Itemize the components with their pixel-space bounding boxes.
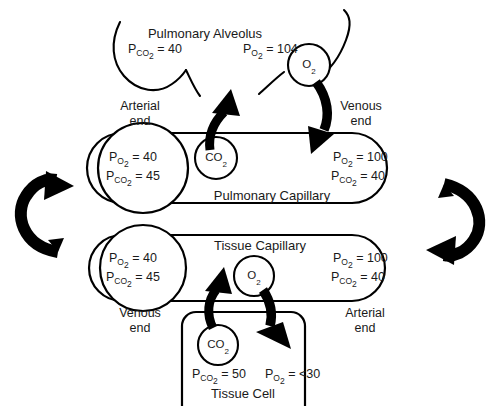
gas-exchange-diagram: Pulmonary Alveolus PCO2 = 40 PO2 = 104 A… <box>0 0 502 408</box>
pulmonary-capillary-title: Pulmonary Capillary <box>214 188 330 203</box>
right-circulation-arrow <box>426 184 479 265</box>
pulmonary-arterial-end-label: Arterial end <box>120 99 160 129</box>
tissue-venous-rbc <box>100 225 186 311</box>
pulmonary-left-po2: PO2 = 40 <box>109 150 157 166</box>
pulmonary-left-pco2: PCO2 = 45 <box>106 169 160 185</box>
tissue-cell-co2-bubble-label: CO2 <box>207 338 229 353</box>
tissue-cell-title: Tissue Cell <box>211 386 275 401</box>
pulmonary-right-pco2: PCO2 = 40 <box>331 169 385 185</box>
tissue-right-pco2: PCO2 = 40 <box>331 270 385 286</box>
pulmonary-right-po2: PO2 = 100 <box>333 150 388 166</box>
diagram-canvas <box>0 0 502 408</box>
alveolus-po2: PO2 = 104 <box>243 42 298 58</box>
tissue-cell-po2: PO2 = <30 <box>265 367 320 383</box>
pulmonary-co2-bubble-label: CO2 <box>205 151 227 166</box>
tissue-cell-pco2: PCO2 = 50 <box>192 367 246 383</box>
left-circulation-arrow <box>21 171 74 252</box>
pulmonary-o2-bubble-label: O2 <box>302 58 315 73</box>
pulmonary-arterial-rbc <box>98 123 188 213</box>
tissue-capillary-title: Tissue Capillary <box>214 238 306 253</box>
tissue-right-po2: PO2 = 100 <box>333 251 388 267</box>
alveolus-title: Pulmonary Alveolus <box>148 26 262 41</box>
tissue-arterial-end-label: Arterial end <box>345 306 385 336</box>
tissue-venous-end-label: Venous end <box>119 306 161 336</box>
tissue-left-po2: PO2 = 40 <box>109 251 157 267</box>
pulmonary-venous-end-label: Venous end <box>340 99 382 129</box>
alveolus-pco2: PCO2 = 40 <box>128 42 182 58</box>
tissue-o2-bubble-label: O2 <box>247 269 260 284</box>
tissue-left-pco2: PCO2 = 45 <box>106 270 160 286</box>
